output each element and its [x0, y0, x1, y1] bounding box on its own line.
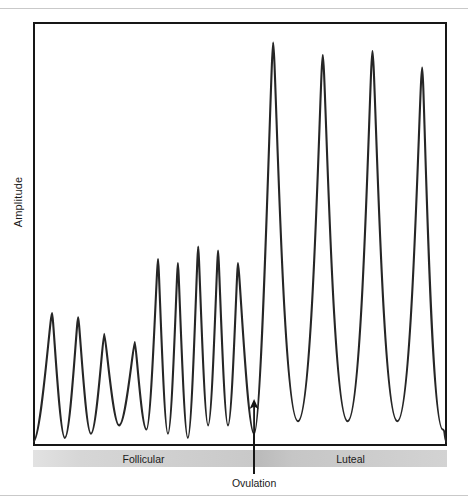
- phase-band: Follicular Luteal: [33, 450, 447, 467]
- curve-path: [33, 43, 447, 442]
- phase-label-luteal: Luteal: [336, 453, 365, 465]
- bottom-divider-rule: [0, 495, 468, 496]
- figure-container: Amplitude Follicular Luteal Ovulation: [0, 0, 468, 504]
- ovulation-leader-line: [253, 432, 255, 474]
- ovulation-label: Ovulation: [194, 477, 314, 489]
- y-axis-label: Amplitude: [12, 162, 24, 242]
- phase-band-follicular: Follicular: [33, 450, 254, 467]
- pulse-curve: [33, 22, 447, 446]
- top-divider-rule: [0, 8, 468, 9]
- phase-band-luteal: Luteal: [254, 450, 447, 467]
- phase-label-follicular: Follicular: [123, 453, 165, 465]
